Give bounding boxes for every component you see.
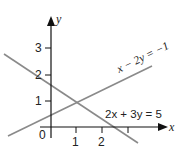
x-axis-label: x [168,120,175,134]
x-tick-label-2: 2 [98,135,105,149]
y-tick-label-3: 3 [35,41,42,55]
x-axis-arrow-icon [158,123,168,131]
y-tick-label-1: 1 [35,94,42,108]
chart-canvas: 0 1 2 1 2 3 x y x − 2y = −1 2x + 3y = 5 [0,0,181,153]
x-tick-label-1: 1 [72,135,79,149]
y-axis-arrow-icon [47,16,55,26]
equation-label-2: 2x + 3y = 5 [105,108,162,120]
y-axis-label: y [55,12,62,26]
line-x-minus-2y [8,66,152,136]
origin-label: 0 [39,128,46,142]
y-tick-label-2: 2 [35,68,42,82]
